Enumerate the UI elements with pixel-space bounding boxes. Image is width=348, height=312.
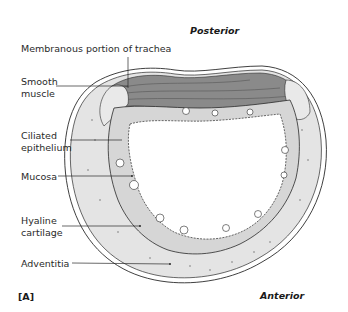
label-adventitia: Adventitia bbox=[21, 258, 69, 269]
panel-label: [A] bbox=[18, 291, 34, 302]
label-ciliated-2: epithelium bbox=[21, 142, 72, 153]
posterior-label: Posterior bbox=[190, 25, 239, 36]
label-mucosa: Mucosa bbox=[21, 171, 57, 182]
label-smooth-muscle-1: Smooth bbox=[21, 76, 58, 87]
label-ciliated-1: Ciliated bbox=[21, 130, 57, 141]
label-smooth-muscle-2: muscle bbox=[21, 88, 55, 99]
label-hyaline-2: cartilage bbox=[21, 227, 63, 238]
anterior-label: Anterior bbox=[260, 290, 304, 301]
label-hyaline-1: Hyaline bbox=[21, 215, 57, 226]
label-membranous-portion: Membranous portion of trachea bbox=[21, 43, 171, 54]
